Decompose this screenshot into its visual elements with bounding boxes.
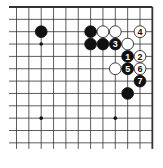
move-number-label: 4: [137, 27, 142, 37]
move-number-label: 5: [125, 64, 130, 74]
black-stone: [97, 38, 109, 50]
black-stone: 7: [134, 75, 146, 87]
move-number-label: 1: [125, 52, 130, 62]
white-stone: 4: [134, 26, 146, 38]
move-number-label: 7: [137, 76, 142, 86]
white-stone: 2: [134, 51, 146, 63]
star-point-icon: [39, 42, 43, 46]
go-board: 4312567: [0, 0, 163, 168]
black-stone: [85, 38, 97, 50]
star-point-icon: [39, 116, 43, 120]
black-stone: [35, 26, 47, 38]
black-stone: [122, 88, 134, 100]
white-stone: [109, 63, 121, 75]
white-stone: [97, 26, 109, 38]
move-number-label: 6: [137, 64, 142, 74]
board-grid: [9, 7, 152, 149]
white-stone: 6: [134, 63, 146, 75]
star-point-icon: [114, 116, 118, 120]
black-stone: [85, 26, 97, 38]
black-stone: 1: [122, 51, 134, 63]
white-stone: [109, 26, 121, 38]
black-stone: 3: [109, 38, 121, 50]
white-stone: [122, 38, 134, 50]
move-number-label: 3: [113, 39, 118, 49]
move-number-label: 2: [137, 52, 142, 62]
black-stone: 5: [122, 63, 134, 75]
